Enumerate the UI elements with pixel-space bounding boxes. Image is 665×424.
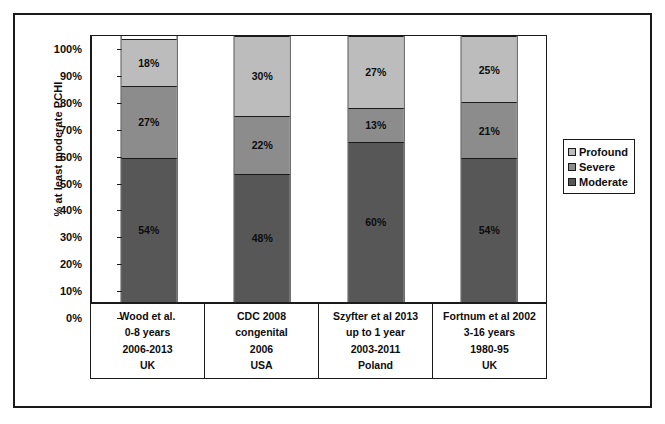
legend-item-label: Moderate (579, 176, 628, 188)
category-label-line: 2006-2013 (122, 343, 172, 356)
legend: ProfoundSevereModerate (563, 139, 635, 194)
category-slot: 18%27%54% (92, 36, 206, 302)
bar-segment-value-label: 25% (479, 64, 500, 76)
bar-segment-moderate[interactable]: 54% (462, 158, 517, 303)
y-axis-tick-labels: 100%90%80%70%60%50%40%30%20%10%0% (42, 42, 82, 311)
stacked-bar[interactable]: 18%27%54% (120, 36, 177, 302)
category-label-line: USA (250, 359, 272, 372)
bar-segment-value-label: 21% (479, 125, 500, 137)
bar-segment-profound[interactable]: 25% (462, 36, 517, 103)
y-axis-tick-label: 80% (42, 97, 82, 109)
bar-segment-value-label: 60% (365, 216, 386, 228)
bar-segment-severe[interactable]: 13% (348, 108, 403, 143)
legend-item-profound[interactable]: Profound (568, 144, 628, 159)
bar-segment-value-label: 22% (252, 139, 273, 151)
category-slot: 25%21%54% (433, 36, 547, 302)
category-label-line: Poland (358, 359, 393, 372)
bar-segment-moderate[interactable]: 54% (121, 158, 176, 303)
category-label-line: 0-8 years (125, 326, 171, 339)
legend-item-severe[interactable]: Severe (568, 159, 628, 174)
y-axis-tick-label: 90% (42, 70, 82, 82)
category-label-line: 3-16 years (464, 326, 515, 339)
stacked-bar[interactable]: 27%13%60% (347, 36, 404, 302)
category-label-line: Fortnum et al 2002 (443, 310, 536, 323)
category-label-line: congenital (235, 326, 288, 339)
legend-swatch-icon (568, 163, 576, 171)
category-label-cell: Szyfter et al 2013up to 1 year2003-2011P… (319, 304, 433, 378)
y-axis-tick-label: 10% (42, 285, 82, 297)
category-label-line: CDC 2008 (237, 310, 286, 323)
category-label-line: 1980-95 (470, 343, 509, 356)
y-axis-tick-label: 70% (42, 124, 82, 136)
category-label-table: Wood et al.0-8 years2006-2013UKCDC 2008c… (90, 304, 547, 379)
bar-segment-value-label: 48% (252, 232, 273, 244)
bar-segment-value-label: 54% (479, 224, 500, 236)
legend-item-moderate[interactable]: Moderate (568, 174, 628, 189)
bar-segment-severe[interactable]: 22% (235, 116, 290, 175)
y-axis-tick-label: 50% (42, 178, 82, 190)
category-label-line: 2003-2011 (351, 343, 401, 356)
category-label-line: Wood et al. (120, 310, 176, 323)
category-label-line: Szyfter et al 2013 (333, 310, 418, 323)
y-axis-tick-label: 30% (42, 231, 82, 243)
category-label-line: UK (140, 359, 155, 372)
bar-segment-moderate[interactable]: 60% (348, 142, 403, 303)
category-slot: 30%22%48% (206, 36, 320, 302)
legend-item-label: Profound (579, 146, 628, 158)
category-label-line: UK (482, 359, 497, 372)
bar-segment-severe[interactable]: 27% (121, 86, 176, 159)
legend-swatch-icon (568, 148, 576, 156)
legend-item-label: Severe (579, 161, 615, 173)
bar-segment-profound[interactable]: 30% (235, 36, 290, 117)
y-axis-tick-label: 40% (42, 204, 82, 216)
y-axis-tick-label: 60% (42, 151, 82, 163)
bar-segment-value-label: 54% (138, 224, 159, 236)
category-label-line: 2006 (250, 343, 273, 356)
category-label-cell: CDC 2008congenital2006USA (205, 304, 319, 378)
bar-segment-moderate[interactable]: 48% (235, 174, 290, 303)
bar-segment-profound[interactable]: 27% (348, 36, 403, 109)
y-axis-tick-label: 0% (42, 312, 82, 324)
bar-segment-value-label: 30% (252, 70, 273, 82)
bar-segment-value-label: 27% (138, 116, 159, 128)
stacked-bar[interactable]: 25%21%54% (461, 36, 518, 302)
legend-swatch-icon (568, 178, 576, 186)
category-slot: 27%13%60% (319, 36, 433, 302)
category-label-line: up to 1 year (346, 326, 405, 339)
category-label-cell: Fortnum et al 20023-16 years1980-95UK (433, 304, 546, 378)
bar-segment-value-label: 13% (365, 119, 386, 131)
chart-frame: % at least moderate PCHI 100%90%80%70%60… (13, 13, 652, 408)
category-label-cell: Wood et al.0-8 years2006-2013UK (91, 304, 205, 378)
bar-segment-profound[interactable]: 18% (121, 39, 176, 87)
bar-segment-value-label: 27% (365, 66, 386, 78)
y-axis-tick-label: 20% (42, 258, 82, 270)
stacked-bar[interactable]: 30%22%48% (234, 36, 291, 302)
bar-segment-value-label: 18% (138, 57, 159, 69)
bar-segment-severe[interactable]: 21% (462, 102, 517, 158)
plot-area: 18%27%54%30%22%48%27%13%60%25%21%54% (90, 35, 547, 304)
y-axis-tick-label: 100% (42, 43, 82, 55)
